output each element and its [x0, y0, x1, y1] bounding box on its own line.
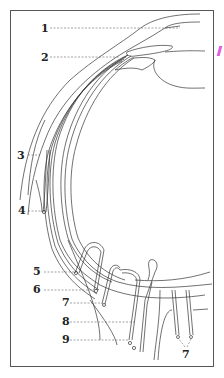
leader-lines — [28, 28, 191, 347]
drawing-lines — [20, 14, 212, 360]
label-3: 3 — [17, 150, 25, 161]
label-6: 6 — [33, 284, 41, 295]
label-9: 9 — [62, 334, 70, 345]
label-4: 4 — [18, 205, 26, 216]
label-7b: 7 — [182, 349, 190, 360]
anatomical-diagram — [0, 0, 224, 378]
label-8: 8 — [62, 316, 70, 327]
label-5: 5 — [33, 266, 41, 277]
label-2: 2 — [41, 52, 49, 63]
label-1: 1 — [41, 23, 49, 34]
label-7a: 7 — [62, 297, 70, 308]
